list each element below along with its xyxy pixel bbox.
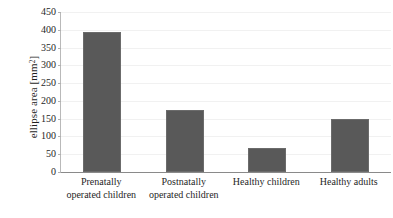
y-axis-tick-label: 400: [41, 25, 56, 35]
y-axis-tick-labels: 050100150200250300350400450: [26, 12, 56, 172]
x-axis-category-label-line: operated children: [144, 189, 225, 202]
y-axis-tick-label: 200: [41, 96, 56, 106]
x-axis-category-label-line: Postnatally: [144, 176, 225, 189]
y-axis-tick-label: 300: [41, 60, 56, 70]
y-axis-tick-label: 350: [41, 43, 56, 53]
y-axis-tick-label: 0: [51, 167, 56, 177]
bar-chart: ellipse area [mm2] 050100150200250300350…: [0, 0, 393, 218]
x-axis-category-label: Healthy adults: [308, 176, 391, 201]
x-axis-category-label: Prenatallyoperated children: [60, 176, 143, 201]
bar-slot: [309, 12, 392, 172]
bar: [248, 148, 286, 172]
bar: [331, 119, 369, 172]
bar-slot: [61, 12, 144, 172]
y-axis-tick-label: 250: [41, 78, 56, 88]
x-axis-category-label: Healthy children: [225, 176, 308, 201]
y-axis-tick-label: 100: [41, 131, 56, 141]
bar-slot: [144, 12, 227, 172]
x-axis-category-labels: Prenatallyoperated childrenPostnatallyop…: [60, 176, 390, 201]
y-axis-tick-label: 150: [41, 114, 56, 124]
y-axis-tickmark: [58, 172, 61, 173]
bar-series: [61, 12, 391, 172]
y-axis-tick-label: 450: [41, 7, 56, 17]
bar: [83, 32, 121, 172]
bar: [166, 110, 204, 172]
x-axis-category-label-line: Prenatally: [61, 176, 142, 189]
plot-area: [60, 12, 391, 173]
x-axis-category-label-line: Healthy adults: [309, 176, 390, 189]
x-axis-category-label: Postnatallyoperated children: [143, 176, 226, 201]
x-axis-category-label-line: operated children: [61, 189, 142, 202]
x-axis-category-label-line: Healthy children: [226, 176, 307, 189]
bar-slot: [226, 12, 309, 172]
y-axis-tick-label: 50: [46, 149, 56, 159]
